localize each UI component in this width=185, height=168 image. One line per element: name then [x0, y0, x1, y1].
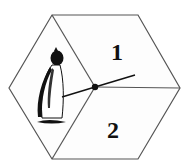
section-label-1: 1 — [111, 39, 123, 65]
pointer-pivot — [92, 84, 98, 90]
spinner-diagram: 1 2 — [0, 0, 185, 168]
spinner-svg: 1 2 — [0, 0, 185, 168]
section-label-2: 2 — [107, 117, 119, 143]
